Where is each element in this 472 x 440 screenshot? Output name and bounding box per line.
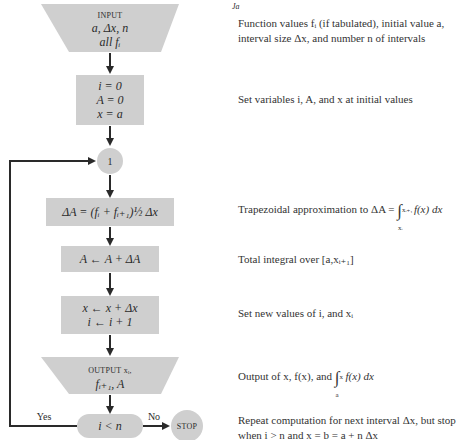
- output-upper-limit: x: [340, 370, 344, 385]
- decision-description: Repeat computation for next interval Δx,…: [238, 413, 456, 440]
- connector-node: 1: [97, 148, 123, 174]
- yes-label: Yes: [37, 411, 52, 422]
- output-description-prefix: Output of x, f(x), and: [238, 370, 335, 382]
- input-description-line-2: interval size Δx, and number n of interv…: [238, 31, 444, 46]
- trapezoid-upper-limit: xᵢ₊₁: [402, 203, 413, 218]
- decision-description-line-1: Repeat computation for next interval Δx,…: [238, 413, 456, 428]
- output-lower-limit: a: [336, 388, 339, 403]
- trapezoid-step-formula: ΔA = (fᵢ + fᵢ₊₁)½ Δx: [61, 205, 158, 219]
- accumulate-node: A ← A + ΔA: [61, 246, 159, 272]
- output-line: fᵢ₊₁, A: [96, 377, 126, 391]
- stop-label: STOP: [177, 422, 198, 431]
- increment-node: x ← x + Δx i ← i + 1: [61, 296, 159, 334]
- increment-line-1: x ← x + Δx: [81, 301, 138, 315]
- trapezoid-description-prefix: Trapezoidal approximation to ΔA =: [238, 203, 397, 215]
- trapezoid-step-node: ΔA = (fᵢ + fᵢ₊₁)½ Δx: [46, 198, 174, 226]
- top-fragment: Ja: [232, 2, 240, 11]
- stop-node: STOP: [171, 410, 203, 440]
- input-label: INPUT: [97, 11, 122, 20]
- input-line-1: a, Δx, n: [92, 21, 128, 35]
- output-node: OUTPUT xᵢ, fᵢ₊₁, A: [41, 357, 179, 394]
- trapezoid-description: Trapezoidal approximation to ΔA = ∫xᵢ₊₁x…: [238, 202, 442, 218]
- decision-condition: i < n: [98, 419, 121, 433]
- init-line-2: A = 0: [95, 93, 123, 107]
- init-line-3: x = a: [96, 107, 122, 121]
- init-line-1: i = 0: [98, 79, 121, 93]
- flowchart: INPUT a, Δx, n all fᵢ i = 0 A = 0 x = a …: [0, 0, 472, 440]
- input-description: Function values fᵢ (if tabulated), initi…: [238, 16, 444, 46]
- input-line-2: all fᵢ: [100, 35, 121, 49]
- no-label: No: [148, 411, 160, 422]
- accumulate-description: Total integral over [a,xᵢ₊₁]: [238, 252, 354, 267]
- input-description-line-1: Function values fᵢ (if tabulated), initi…: [238, 16, 444, 31]
- input-node: INPUT a, Δx, n all fᵢ: [41, 4, 179, 52]
- output-integrand: f(x) dx: [346, 370, 374, 382]
- connector-label: 1: [108, 156, 113, 167]
- decision-node: i < n: [77, 414, 143, 438]
- init-node: i = 0 A = 0 x = a: [76, 75, 144, 125]
- trapezoid-lower-limit: xᵢ: [398, 221, 403, 236]
- output-label: OUTPUT xᵢ,: [88, 366, 132, 375]
- increment-description: Set new values of i, and xᵢ: [238, 306, 353, 321]
- init-description: Set variables i, A, and x at initial val…: [238, 92, 413, 107]
- trapezoid-integrand: f(x) dx: [414, 203, 442, 215]
- output-description: Output of x, f(x), and ∫xaf(x) dx: [238, 369, 374, 385]
- accumulate-formula: A ← A + ΔA: [79, 252, 141, 266]
- increment-line-2: i ← i + 1: [88, 315, 133, 329]
- decision-description-line-2: when i > n and x = b = a + n Δx: [238, 428, 456, 440]
